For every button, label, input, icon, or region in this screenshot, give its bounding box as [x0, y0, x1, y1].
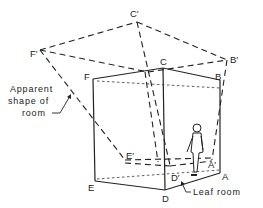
label-d-prime: D′ — [171, 172, 180, 183]
leaf-room-edge-fe — [93, 79, 95, 181]
label-c-prime: C′ — [130, 8, 139, 19]
label-b: B — [215, 71, 221, 82]
svg-text:room: room — [22, 108, 46, 118]
label-a-prime: A′ — [208, 159, 216, 170]
vertex-labels: C′ F′ B′ C F B E′ A′ D′ A E D — [30, 8, 238, 204]
apparent-shape-annotation: Apparent shape of room — [8, 84, 71, 118]
label-c: C — [160, 56, 167, 67]
apparent-edge-cd — [137, 22, 170, 165]
leaf-room-annotation: Leaf room — [181, 181, 241, 197]
label-b-prime: B′ — [230, 54, 238, 65]
svg-text:Apparent: Apparent — [10, 84, 53, 94]
label-e-prime: E′ — [126, 150, 134, 161]
apparent-edge-cb — [137, 22, 227, 60]
ames-room-diagram: C′ F′ B′ C F B E′ A′ D′ A E D Apparent s… — [0, 0, 263, 208]
label-f-prime: F′ — [30, 48, 38, 59]
svg-text:shape of: shape of — [8, 96, 49, 106]
label-a: A — [222, 171, 229, 182]
person-figure-icon — [187, 124, 203, 175]
svg-text:Leaf room: Leaf room — [193, 187, 241, 197]
apparent-edge-fc — [40, 22, 137, 50]
label-d: D — [162, 193, 169, 204]
apparent-edge-fe — [40, 50, 125, 160]
label-f: F — [84, 71, 90, 82]
leaf-room-hidden-edges — [97, 81, 220, 179]
leaf-room-top-edge — [93, 68, 220, 80]
label-e: E — [88, 182, 94, 193]
leaf-room-edge-cd — [163, 68, 165, 190]
